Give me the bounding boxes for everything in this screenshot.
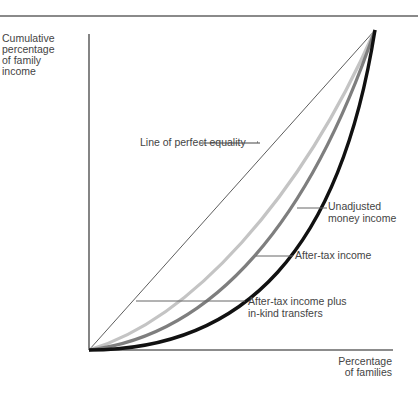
unadjusted-label-line2: money income [328, 213, 396, 224]
equality-label: Line of perfect equality [140, 137, 246, 148]
inkind-label-line1: After-tax income plus [248, 296, 347, 307]
inkind-label-line2: in-kind transfers [248, 308, 323, 319]
unadjusted-label-line1: Unadjusted [328, 201, 381, 212]
lorenz-curve-diagram [0, 0, 418, 397]
after-tax-label: After-tax income [295, 250, 371, 261]
